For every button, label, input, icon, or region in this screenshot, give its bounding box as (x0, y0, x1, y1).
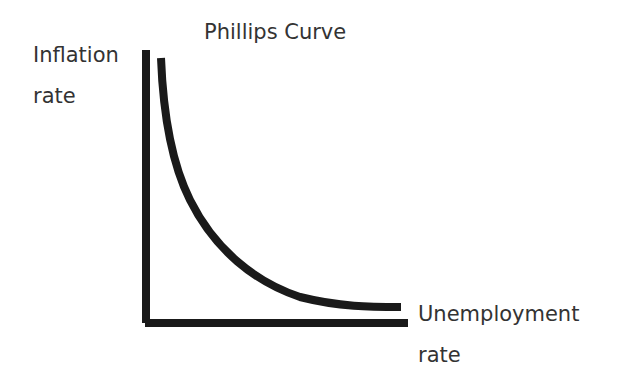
phillips-curve (161, 58, 401, 307)
phillips-curve-plot (0, 0, 628, 384)
